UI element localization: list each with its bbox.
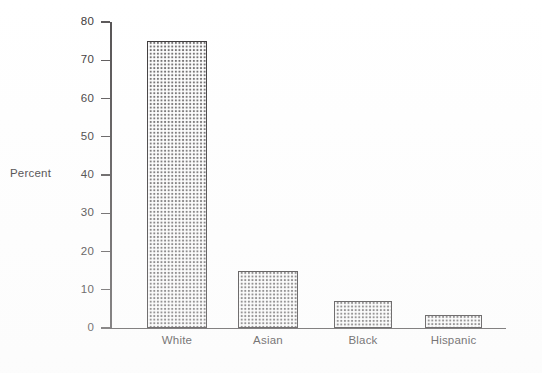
- y-axis-tick-label: 10: [56, 284, 94, 296]
- y-axis-tick-label: 80: [56, 16, 94, 28]
- bar-asian: [238, 271, 298, 328]
- y-axis-tick-label: 20: [56, 246, 94, 258]
- y-axis-tick-label-text: 30: [60, 207, 94, 219]
- y-axis-tick-label-text: 10: [60, 284, 94, 296]
- x-axis-label-asian: Asian: [223, 335, 313, 347]
- y-axis-tick-label-text: 50: [60, 131, 94, 143]
- y-axis-tick-label-text: 60: [60, 93, 94, 105]
- y-axis-tick: [101, 21, 110, 22]
- y-axis-tick-label: 40: [56, 169, 94, 181]
- y-axis-tick-label-text: 80: [60, 16, 94, 28]
- y-axis-tick: [101, 174, 110, 175]
- x-axis-label-black: Black: [318, 335, 408, 347]
- y-axis-tick-label-text: 40: [60, 169, 94, 181]
- bar-chart: Percent 01020304050607080 WhiteAsianBlac…: [0, 0, 542, 373]
- y-axis-tick: [101, 251, 110, 252]
- x-axis-label-hispanic: Hispanic: [409, 335, 499, 347]
- bar-white: [147, 41, 207, 328]
- y-axis-line: [110, 22, 112, 329]
- y-axis-tick-label-text: 0: [60, 322, 94, 334]
- y-axis-tick-label-text: 70: [60, 54, 94, 66]
- y-axis-tick: [101, 213, 110, 214]
- bar-hispanic: [425, 315, 482, 328]
- y-axis-tick: [101, 136, 110, 137]
- x-axis-label-white: White: [132, 335, 222, 347]
- y-axis-tick: [101, 60, 110, 61]
- y-axis-tick-label-text: 20: [60, 246, 94, 258]
- y-axis-tick-label: 50: [56, 131, 94, 143]
- y-axis-title: Percent: [10, 167, 51, 179]
- y-axis-tick-label: 30: [56, 207, 94, 219]
- bar-black: [334, 301, 392, 328]
- y-axis-tick: [101, 289, 110, 290]
- y-axis-tick: [101, 98, 110, 99]
- y-axis-tick: [101, 327, 110, 328]
- y-axis-tick-label: 60: [56, 93, 94, 105]
- y-axis-tick-label: 0: [56, 322, 94, 334]
- y-axis-tick-label: 70: [56, 54, 94, 66]
